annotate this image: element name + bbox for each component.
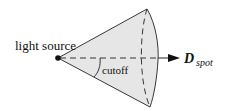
cutoff-label: cutoff xyxy=(102,64,128,76)
light-source-label: light source xyxy=(15,38,76,53)
direction-label: D xyxy=(183,51,194,66)
light-source-dot xyxy=(55,55,61,61)
direction-subscript: spot xyxy=(196,57,213,68)
spotlight-diagram: light source cutoff D spot xyxy=(0,0,227,111)
spotlight-cone-figure: light source cutoff D spot xyxy=(0,0,227,111)
direction-arrow-head xyxy=(168,54,180,62)
